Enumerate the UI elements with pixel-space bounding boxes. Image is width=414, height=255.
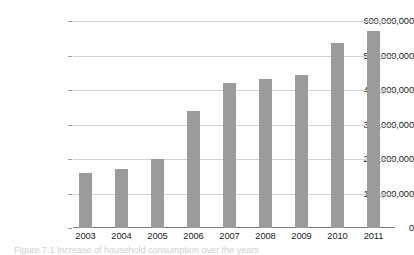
y-tick-dash <box>68 21 72 22</box>
bar-2011 <box>367 31 380 228</box>
y-tick-dash <box>68 228 72 229</box>
y-tick-dash <box>68 56 72 57</box>
y-tick-dash <box>68 159 72 160</box>
figure-caption: Figure 7.1 Increase of household consump… <box>14 246 404 255</box>
x-tick-label-2011: 2011 <box>351 232 397 241</box>
bar-2006 <box>187 111 200 228</box>
bar-2003 <box>79 173 92 228</box>
bar-2010 <box>331 43 344 228</box>
bar-2005 <box>151 159 164 228</box>
bar-2008 <box>259 79 272 228</box>
y-tick-dash <box>68 90 72 91</box>
bar-2007 <box>223 83 236 228</box>
bar-2009 <box>295 75 308 228</box>
bar-2004 <box>115 169 128 228</box>
y-tick-dash <box>68 125 72 126</box>
bar-chart-figure: 600,000,000 500,000,000 400,000,000 300,… <box>0 0 414 255</box>
y-tick-dash <box>68 194 72 195</box>
bars-layer <box>73 0 395 228</box>
